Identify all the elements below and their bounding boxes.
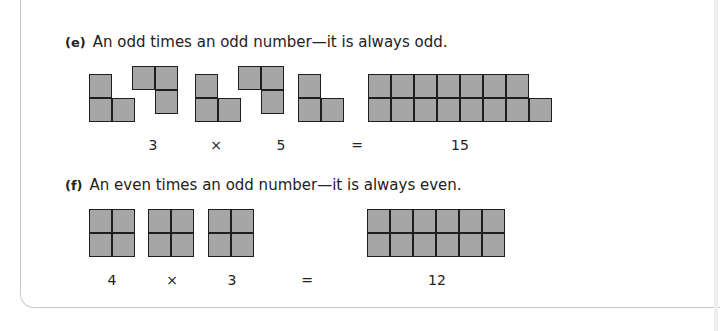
grid-cell (208, 209, 231, 233)
grid-cell (367, 209, 390, 233)
grid-cell (195, 74, 218, 98)
grid-cell (261, 66, 284, 90)
grid-cell (459, 209, 482, 233)
equation-e-equals: = (351, 137, 363, 153)
grid-cell (171, 233, 194, 257)
question-f-label: (f) (65, 178, 83, 193)
grid-cell (155, 90, 178, 114)
grid-cell (390, 233, 413, 257)
grid-cell (231, 233, 254, 257)
equation-e-factor-2: 5 (277, 137, 286, 153)
grid-cell (391, 98, 414, 122)
grid-cell (437, 98, 460, 122)
grid-cell (414, 74, 437, 98)
question-f-text: An even times an odd number—it is always… (90, 176, 462, 194)
equation-e-factor-1: 3 (149, 137, 158, 153)
grid-cell (298, 74, 321, 98)
grid-cell (506, 98, 529, 122)
equation-f-factor-1: 4 (108, 272, 117, 288)
grid-cell (483, 98, 506, 122)
grid-cell (482, 233, 505, 257)
grid-cell (155, 66, 178, 90)
grid-cell (261, 90, 284, 114)
grid-cell (231, 209, 254, 233)
grid-cell (506, 74, 529, 98)
grid-cell (368, 74, 391, 98)
grid-cell (367, 233, 390, 257)
grid-cell (89, 98, 112, 122)
equation-e-times: × (210, 137, 222, 153)
equation-f-factor-2: 3 (228, 272, 237, 288)
question-e-statement: (e)An odd times an odd number—it is alwa… (65, 33, 448, 52)
equation-f-equals: = (301, 272, 313, 288)
question-e-text: An odd times an odd number—it is always … (93, 33, 448, 51)
grid-cell (413, 233, 436, 257)
grid-cell (148, 209, 171, 233)
grid-cell (413, 209, 436, 233)
equation-f-times: × (166, 272, 178, 288)
grid-cell (460, 98, 483, 122)
grid-cell (298, 98, 321, 122)
question-f-statement: (f)An even times an odd number—it is alw… (65, 176, 462, 195)
equation-f-product: 12 (428, 272, 446, 288)
grid-cell (459, 233, 482, 257)
grid-cell (436, 209, 459, 233)
page-edge (714, 0, 718, 331)
grid-cell (437, 74, 460, 98)
grid-cell (321, 98, 344, 122)
question-e-label: (e) (65, 35, 86, 50)
grid-cell (218, 98, 241, 122)
grid-cell (112, 98, 135, 122)
grid-cell (195, 98, 218, 122)
grid-cell (482, 209, 505, 233)
grid-cell (390, 209, 413, 233)
grid-cell (112, 233, 135, 257)
grid-cell (436, 233, 459, 257)
grid-cell (529, 98, 552, 122)
grid-cell (89, 233, 112, 257)
grid-cell (460, 74, 483, 98)
grid-cell (171, 209, 194, 233)
grid-cell (112, 209, 135, 233)
grid-cell (238, 66, 261, 90)
grid-cell (368, 98, 391, 122)
grid-cell (208, 233, 231, 257)
grid-cell (148, 233, 171, 257)
grid-cell (483, 74, 506, 98)
grid-cell (391, 74, 414, 98)
equation-e-product: 15 (451, 137, 469, 153)
grid-cell (414, 98, 437, 122)
grid-cell (89, 74, 112, 98)
grid-cell (89, 209, 112, 233)
grid-cell (132, 66, 155, 90)
